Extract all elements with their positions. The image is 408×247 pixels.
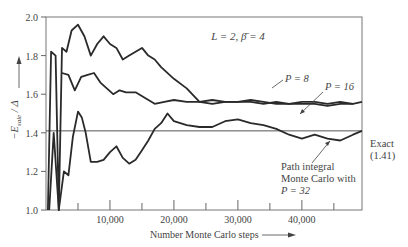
y-axis-arrowhead (17, 56, 22, 64)
x-tick-label: 40,000 (288, 214, 316, 225)
y-tick-label: 2.0 (26, 12, 39, 23)
series-label-p8: P = 8 (284, 73, 310, 84)
arrowhead-pimc (325, 141, 330, 146)
x-tick-label: 10,000 (96, 214, 124, 225)
y-axis-label: −Esale / Δ (9, 100, 23, 139)
series-label-p16: P = 16 (324, 81, 355, 92)
x-tick-label: 20,000 (160, 214, 188, 225)
arrow-p8 (272, 80, 283, 88)
y-tick-label: 1.6 (26, 89, 39, 100)
pimc-label-line2: Monte Carlo with (281, 173, 356, 184)
series-p16 (62, 73, 353, 106)
exact-label: Exact (370, 138, 394, 149)
pimc-label-line1: Path integral (281, 161, 334, 172)
svg-text:−Esale / Δ: −Esale / Δ (9, 100, 23, 139)
parameters-label: L = 2, β̄ = 4 (210, 30, 265, 42)
pimc-label-line3: P = 32 (280, 185, 311, 196)
exact-value-label: (1.41) (370, 150, 396, 162)
y-tick-label: 1.0 (26, 205, 39, 216)
x-tick-label: 30,000 (224, 214, 252, 225)
x-axis: 10,00020,00030,00040,000 (78, 200, 334, 225)
x-axis-label: Number Monte Carlo steps (150, 229, 259, 240)
y-axis: 1.01.21.41.61.82.0 (26, 12, 47, 216)
chart: 1.01.21.41.61.82.0 10,00020,00030,00040,… (0, 0, 408, 247)
y-tick-label: 1.8 (26, 51, 39, 62)
y-tick-label: 1.2 (26, 166, 39, 177)
x-axis-arrowhead (288, 233, 296, 238)
y-tick-label: 1.4 (26, 128, 39, 139)
